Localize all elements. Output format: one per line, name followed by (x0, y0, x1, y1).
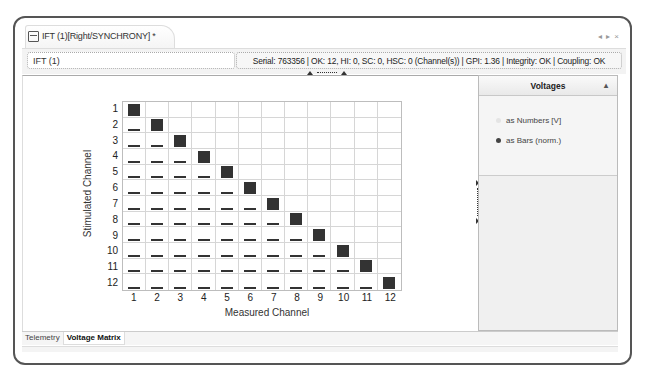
x-tick-label: 5 (215, 292, 238, 303)
voltage-bar-small (221, 192, 233, 194)
matrix-cell (216, 212, 239, 228)
voltage-bar-full (360, 260, 372, 272)
x-tick-label: 6 (239, 292, 262, 303)
x-tick-label: 9 (309, 292, 332, 303)
voltages-panel-header[interactable]: Voltages ▴ (479, 76, 617, 96)
matrix-cell (146, 165, 169, 181)
status-summary: Serial: 763356 | OK: 12, HI: 0, SC: 0, H… (236, 52, 622, 69)
voltage-bar-small (244, 287, 256, 289)
matrix-cell (308, 149, 331, 165)
voltage-bar-small (198, 239, 210, 241)
matrix-cell (331, 102, 354, 118)
voltage-bar-small (198, 208, 210, 210)
matrix-cell (216, 259, 239, 275)
matrix-cell (239, 259, 262, 275)
matrix-cell (262, 227, 285, 243)
matrix-cell (146, 212, 169, 228)
voltage-bar-full (151, 119, 163, 131)
radio-unselected-icon[interactable] (496, 118, 501, 123)
y-tick-label: 3 (98, 133, 118, 149)
voltage-bar-small (221, 270, 233, 272)
matrix-cell (169, 149, 192, 165)
voltage-bar-small (174, 161, 186, 163)
matrix-cell (285, 243, 308, 259)
matrix-cell (146, 133, 169, 149)
matrix-cell (331, 133, 354, 149)
scroll-left-icon[interactable]: ◂ (598, 32, 602, 41)
matrix-cell (123, 133, 146, 149)
collapse-icon[interactable]: ▴ (604, 76, 608, 96)
matrix-cell (378, 227, 401, 243)
y-tick-label: 1 (98, 101, 118, 117)
matrix-cell (169, 212, 192, 228)
matrix-cell (123, 227, 146, 243)
voltage-bar-small (174, 270, 186, 272)
x-axis-label: Measured Channel (212, 307, 322, 318)
matrix-cell (308, 274, 331, 290)
matrix-cell (169, 165, 192, 181)
voltage-bar-small (221, 287, 233, 289)
tab-telemetry[interactable]: Telemetry (22, 332, 63, 345)
voltage-bar-small (244, 239, 256, 241)
voltage-bar-small (128, 145, 140, 147)
matrix-cell (239, 212, 262, 228)
matrix-cell (331, 149, 354, 165)
x-tick-label: 7 (262, 292, 285, 303)
arrow-up-icon (341, 71, 347, 75)
bottom-tab-bar: Telemetry Voltage Matrix (22, 331, 618, 345)
y-axis-ticks: 123456789101112 (98, 101, 118, 291)
x-tick-label: 8 (285, 292, 308, 303)
matrix-cell (378, 196, 401, 212)
close-icon[interactable]: × (614, 32, 619, 41)
matrix-cell (239, 149, 262, 165)
matrix-cell (378, 243, 401, 259)
voltage-bar-small (244, 223, 256, 225)
voltage-bar-small (244, 255, 256, 257)
matrix-cell (355, 196, 378, 212)
radio-selected-icon[interactable] (496, 138, 501, 143)
radio-as-numbers[interactable]: as Numbers [V] (479, 110, 617, 130)
device-identifier: IFT (1) (27, 52, 235, 69)
voltage-bar-small (337, 287, 349, 289)
arrow-up-icon (307, 71, 313, 75)
matrix-cell (123, 118, 146, 134)
voltage-bar-small (128, 270, 140, 272)
voltage-bar-small (128, 239, 140, 241)
matrix-cell (192, 243, 215, 259)
voltage-bar-small (290, 287, 302, 289)
voltage-bar-small (198, 270, 210, 272)
scroll-right-icon[interactable]: ▸ (606, 32, 610, 41)
matrix-cell (216, 102, 239, 118)
matrix-cell (239, 118, 262, 134)
voltage-bar-full (221, 166, 233, 178)
matrix-cell (169, 180, 192, 196)
matrix-cell (308, 227, 331, 243)
matrix-cell (239, 227, 262, 243)
matrix-cell (123, 274, 146, 290)
tab-voltage-matrix[interactable]: Voltage Matrix (63, 332, 125, 345)
voltage-bar-small (128, 287, 140, 289)
y-tick-label: 10 (98, 243, 118, 259)
panel-empty-area (479, 176, 617, 330)
radio-as-bars[interactable]: as Bars (norm.) (479, 130, 617, 150)
matrix-cell (262, 180, 285, 196)
matrix-cell (146, 243, 169, 259)
matrix-cell (169, 243, 192, 259)
voltage-bar-small (267, 255, 279, 257)
matrix-cell (285, 118, 308, 134)
matrix-cell (285, 180, 308, 196)
matrix-cell (146, 227, 169, 243)
matrix-cell (262, 165, 285, 181)
y-tick-label: 12 (98, 275, 118, 291)
document-tab[interactable]: IFT (1)[Right/SYNCHRONY] * (28, 27, 158, 45)
matrix-cell (355, 102, 378, 118)
matrix-cell (355, 274, 378, 290)
matrix-cell (239, 102, 262, 118)
x-axis-ticks: 123456789101112 (122, 292, 402, 303)
matrix-cell (169, 227, 192, 243)
matrix-cell (331, 227, 354, 243)
voltage-bar-small (244, 270, 256, 272)
matrix-cell (285, 259, 308, 275)
matrix-cell (216, 165, 239, 181)
voltage-bar-small (174, 223, 186, 225)
